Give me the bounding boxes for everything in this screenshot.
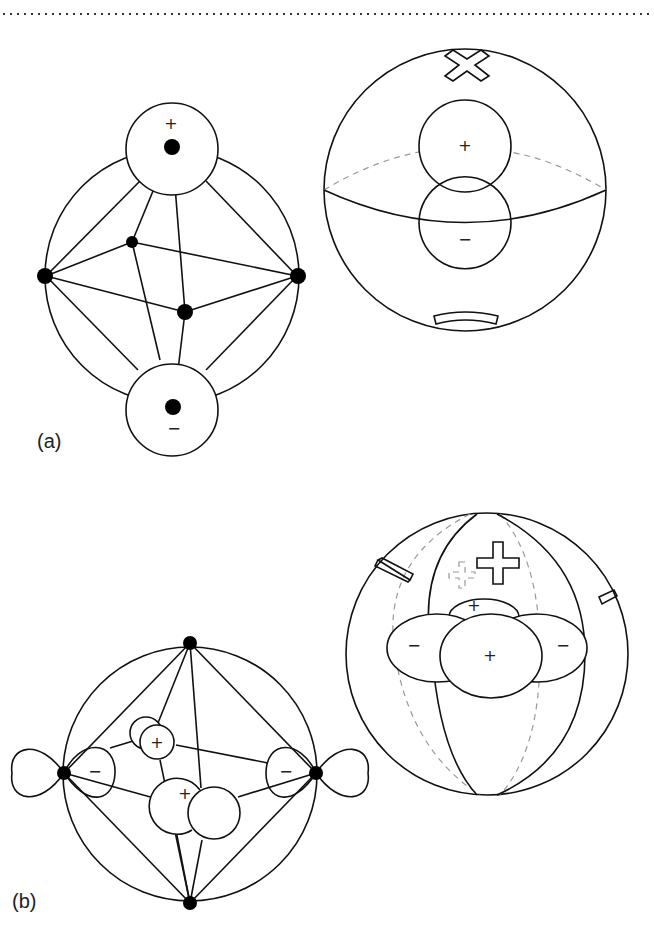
atom <box>183 636 197 650</box>
left-lobe-sign: − <box>407 636 420 655</box>
left-lobe-sign: − <box>88 762 101 781</box>
top-lobe-sign: + <box>164 114 177 133</box>
minus-bar-icon <box>434 312 498 324</box>
upper-lobe-sign: + <box>458 136 471 155</box>
atom <box>57 766 71 780</box>
atom <box>165 399 181 415</box>
atom <box>37 268 53 284</box>
panel-a-octahedron: + − <box>37 103 306 456</box>
center-lobe-sign: + <box>483 646 496 665</box>
minus-left-icon <box>375 558 413 582</box>
panel-label-b: (b) <box>12 890 36 912</box>
back-lobe-sign: + <box>150 733 163 752</box>
atom <box>183 896 197 910</box>
front-lobe-sign: + <box>178 784 191 803</box>
plus-dashed-symbol-icon <box>449 562 475 588</box>
panel-b-octahedron: + + − − <box>12 636 369 910</box>
right-outer-lobe <box>316 749 368 796</box>
atom <box>126 236 138 248</box>
panel-b-sphere: + + − − <box>346 513 628 795</box>
panel-a-sphere: + − <box>324 49 606 331</box>
figure-canvas: + − (a) + − <box>0 0 654 927</box>
front-lobe <box>188 787 240 839</box>
right-lobe-sign: − <box>279 762 292 781</box>
minus-right-icon <box>599 590 617 604</box>
bottom-lobe-sign: − <box>167 419 180 438</box>
atom <box>164 139 180 155</box>
atom <box>177 304 193 320</box>
right-lobe-sign: − <box>556 636 569 655</box>
cross-symbol-icon <box>445 50 489 81</box>
left-outer-lobe <box>12 749 64 796</box>
lower-lobe-sign: − <box>458 230 471 249</box>
atom <box>290 268 306 284</box>
panel-label-a: (a) <box>37 430 61 452</box>
upper-lobe-sign: + <box>467 596 480 615</box>
plus-symbol-icon <box>477 542 519 584</box>
atom <box>309 766 323 780</box>
